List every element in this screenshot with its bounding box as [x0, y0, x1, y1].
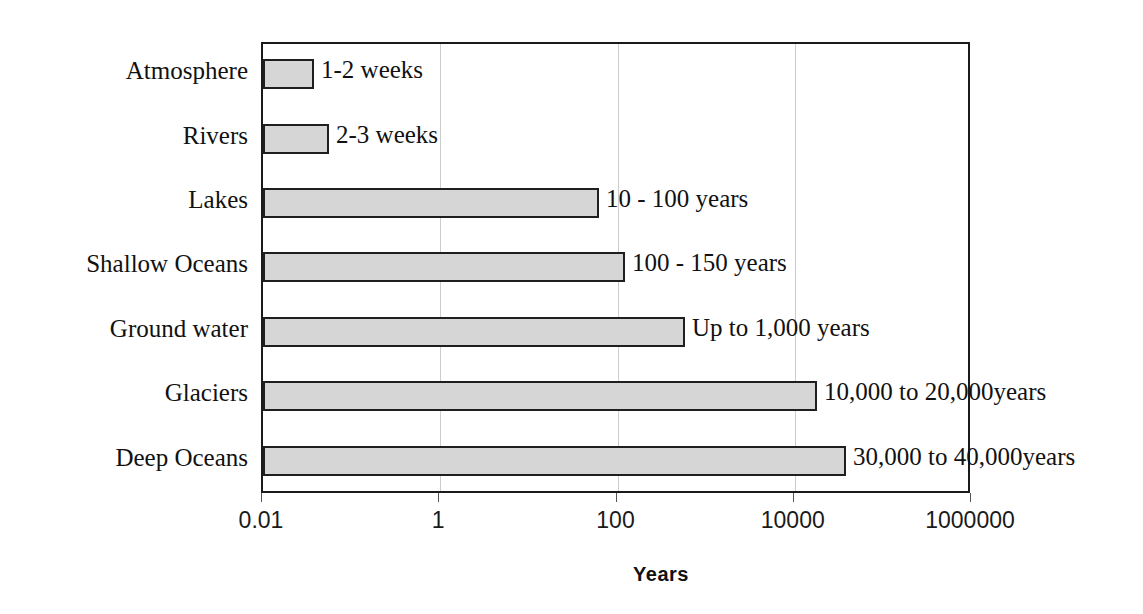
value-label-lakes: 10 - 100 years — [606, 186, 748, 211]
tick-label: 1000000 — [925, 509, 1015, 532]
value-label-ground-water: Up to 1,000 years — [692, 315, 870, 340]
value-label-glaciers: 10,000 to 20,000years — [824, 379, 1046, 404]
value-label-atmosphere: 1-2 weeks — [321, 57, 423, 82]
bar — [263, 446, 846, 476]
tick-mark — [438, 493, 439, 502]
tick-label: 100 — [596, 509, 634, 532]
bar — [263, 59, 314, 89]
water-residence-time-chart: AtmosphereRiversLakesShallow OceansGroun… — [0, 0, 1143, 614]
category-label-ground-water: Ground water — [0, 315, 248, 343]
category-label-deep-oceans: Deep Oceans — [0, 444, 248, 472]
gridline — [795, 44, 796, 491]
bar — [263, 317, 685, 347]
x-axis-title: Years — [633, 563, 689, 586]
plot-area — [261, 42, 970, 493]
category-label-shallow-oceans: Shallow Oceans — [0, 250, 248, 278]
tick-mark — [261, 493, 262, 502]
tick-mark — [793, 493, 794, 502]
category-label-atmosphere: Atmosphere — [0, 57, 248, 85]
bar — [263, 188, 599, 218]
category-label-rivers: Rivers — [0, 122, 248, 150]
bar — [263, 124, 329, 154]
bar — [263, 252, 625, 282]
category-label-lakes: Lakes — [0, 186, 248, 214]
bar — [263, 381, 817, 411]
tick-label: 1 — [432, 509, 445, 532]
tick-mark — [970, 493, 971, 502]
value-label-rivers: 2-3 weeks — [336, 122, 438, 147]
tick-label: 10000 — [761, 509, 825, 532]
category-label-glaciers: Glaciers — [0, 379, 248, 407]
value-label-deep-oceans: 30,000 to 40,000years — [853, 444, 1075, 469]
value-label-shallow-oceans: 100 - 150 years — [632, 250, 787, 275]
tick-label: 0.01 — [239, 509, 284, 532]
tick-mark — [616, 493, 617, 502]
